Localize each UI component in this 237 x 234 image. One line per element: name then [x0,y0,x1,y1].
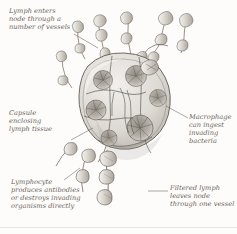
bottom-divider [0,227,237,228]
caption-efferent-vessel: Filtered lymph leaves node through one v… [170,184,237,208]
caption-macrophage: Macrophage can ingest invading bacteria [189,113,237,145]
lymph-node-icon [79,53,170,162]
leader-capsule [71,128,93,140]
caption-afferent-vessels: Lymph enters node through a number of ve… [9,7,104,31]
caption-capsule: Capsule enclosing lymph tissue [9,109,71,133]
lymph-node-figure: Lymph enters node through a number of ve… [0,0,237,234]
caption-lymphocyte: Lymphocyte produces antibodies or destro… [11,178,107,210]
